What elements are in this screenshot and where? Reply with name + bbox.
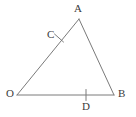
vertex-label-a: A — [74, 3, 82, 14]
triangle-diagram-svg — [0, 0, 136, 117]
tick-mark-c-icon — [55, 34, 64, 42]
segment-AB — [79, 19, 114, 95]
point-label-c: C — [47, 29, 54, 40]
vertex-label-o: O — [6, 88, 14, 99]
geometry-figure: A C O B D — [0, 0, 136, 117]
vertex-label-b: B — [118, 88, 125, 99]
point-label-d: D — [82, 101, 90, 112]
